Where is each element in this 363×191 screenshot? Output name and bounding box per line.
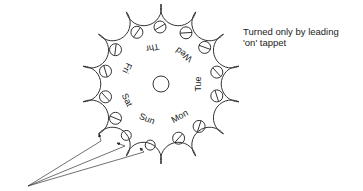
- tappet-screw: [180, 27, 192, 39]
- tappet-screw: [199, 41, 211, 53]
- pointer-arrows: [28, 134, 144, 186]
- tappet-screw: [100, 91, 112, 103]
- wheel-outline: [83, 4, 239, 164]
- scalloped-rim: [83, 4, 239, 164]
- tappet-screw: [110, 44, 122, 56]
- day-labels: SunMonTueWedThrFriSat: [120, 41, 204, 126]
- caption-line-2: 'on' tappet: [243, 37, 363, 48]
- tappet-screw: [211, 90, 223, 102]
- day-label-wed: Wed: [174, 45, 195, 64]
- caption: Turned only by leading 'on' tappet: [243, 26, 363, 48]
- tappet-screw: [211, 66, 223, 78]
- tappet-screw: [110, 112, 122, 124]
- day-label-tue: Tue: [193, 76, 203, 91]
- day-label-thr: Thr: [145, 41, 160, 54]
- tappet-screw: [154, 21, 166, 33]
- pointer-arrow: [28, 134, 101, 186]
- tappet-screw: [131, 26, 143, 38]
- caption-line-1: Turned only by leading: [243, 26, 363, 37]
- center-hole: [153, 76, 169, 92]
- day-label-mon: Mon: [170, 108, 190, 125]
- empty-hole: [121, 130, 131, 140]
- day-label-sat: Sat: [120, 92, 135, 109]
- day-label-fri: Fri: [120, 61, 134, 75]
- tappet-screw: [100, 65, 112, 77]
- pointer-arrow: [28, 143, 125, 186]
- day-label-sun: Sun: [138, 111, 157, 126]
